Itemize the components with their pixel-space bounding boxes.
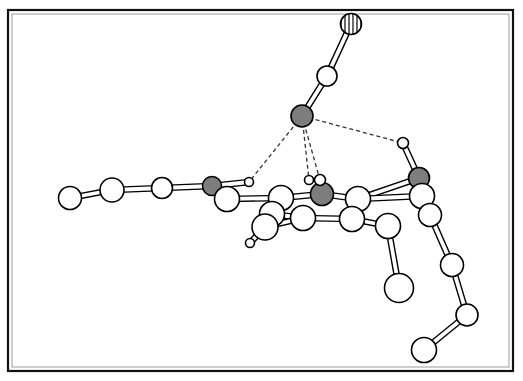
atom-sphere-c5 [215, 187, 240, 212]
atom-f4 [419, 204, 442, 227]
atom-sphere-c28 [412, 338, 437, 363]
atom-sphere-c27 [456, 304, 478, 326]
bond-layer [70, 23, 470, 352]
atom-a3 [152, 178, 173, 199]
atom-sphere-c24 [376, 214, 401, 239]
atom-sphere-h14 [246, 239, 255, 248]
hydrogen-bond-3 [302, 116, 403, 143]
atom-a1 [59, 187, 82, 210]
atom-h2 [456, 304, 478, 326]
atom-b4 [340, 207, 365, 232]
atom-sphere-c3 [152, 178, 173, 199]
atom-sphere-c10 [340, 207, 365, 232]
atom-a2 [100, 178, 124, 202]
atom-c2 [246, 239, 255, 248]
atom-e1 [291, 105, 313, 127]
atom-layer [59, 14, 479, 363]
atom-e2 [317, 66, 337, 86]
atom-sphere-c18 [317, 66, 337, 86]
atom-c1 [252, 214, 278, 240]
atom-a6 [245, 178, 254, 187]
atom-sphere-h6 [245, 178, 254, 187]
atom-sphere-c23 [419, 204, 442, 227]
atom-d2 [315, 175, 326, 186]
atom-sphere-c2 [100, 178, 124, 202]
atom-b5 [291, 206, 316, 231]
atom-h3 [412, 338, 437, 363]
atom-sphere-c26 [441, 254, 464, 277]
hydrogen-bond-layer [249, 116, 403, 182]
atom-sphere-h15 [305, 176, 314, 185]
atom-e3 [341, 14, 362, 35]
atom-g2 [385, 274, 414, 303]
hydrogen-bond-0 [249, 116, 302, 182]
atom-d1 [305, 176, 314, 185]
atom-f1 [398, 138, 409, 149]
atom-sphere-c13 [252, 214, 278, 240]
atom-sphere-h20 [398, 138, 409, 149]
atom-sphere-x19 [341, 14, 362, 35]
figure-frame [8, 10, 513, 371]
atom-sphere-h16 [315, 175, 326, 186]
frame-outer-border [8, 10, 513, 371]
atom-sphere-o17 [291, 105, 313, 127]
frame-inner-border [12, 14, 509, 367]
molecule-canvas [0, 0, 523, 381]
atom-sphere-c1 [59, 187, 82, 210]
atom-h1 [441, 254, 464, 277]
atom-sphere-c11 [291, 206, 316, 231]
atom-a5 [215, 187, 240, 212]
atom-sphere-o25 [385, 274, 414, 303]
atom-g1 [376, 214, 401, 239]
molecular-structure-figure [0, 0, 523, 381]
